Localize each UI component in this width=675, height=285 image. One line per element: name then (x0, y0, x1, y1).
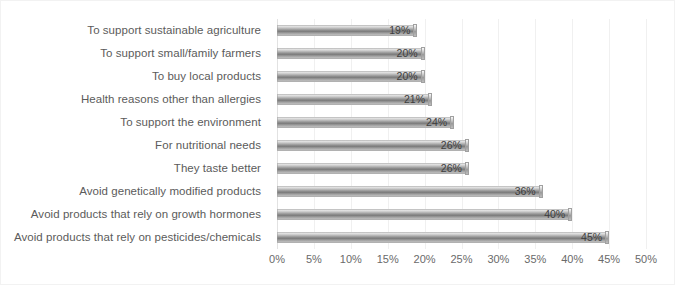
bar-value-label: 20% (277, 46, 422, 61)
axis-tick-label: 45% (598, 253, 620, 265)
axis-tick-label: 5% (306, 253, 322, 265)
category-label: To buy local products (1, 65, 269, 88)
category-label: Health reasons other than allergies (1, 88, 269, 111)
bar-value-label: 20% (277, 69, 422, 84)
bar-row: 26% (277, 134, 646, 157)
category-label: Avoid products that rely on growth hormo… (1, 203, 269, 226)
bar-value-label: 26% (277, 138, 466, 153)
bar-value-label: 26% (277, 161, 466, 176)
axis-tick-label: 35% (524, 253, 546, 265)
axis-tick-label: 50% (635, 253, 657, 265)
category-label: Avoid genetically modified products (1, 180, 269, 203)
plot-area: 19%20%20%21%24%26%26%36%40%45% (277, 19, 646, 249)
bar-row: 20% (277, 65, 646, 88)
axis-tick-label: 25% (450, 253, 472, 265)
axis-tick-label: 10% (340, 253, 362, 265)
bar-row: 20% (277, 42, 646, 65)
bar-row: 26% (277, 157, 646, 180)
bar-value-label: 40% (277, 207, 569, 222)
bar-value-label: 24% (277, 115, 451, 130)
category-axis: To support sustainable agricultureTo sup… (1, 19, 269, 249)
value-axis: 0%5%10%15%20%25%30%35%40%45%50% (277, 253, 646, 273)
axis-tick-label: 40% (561, 253, 583, 265)
bar-row: 40% (277, 203, 646, 226)
axis-tick-label: 20% (414, 253, 436, 265)
category-label: To support the environment (1, 111, 269, 134)
axis-tick-label: 0% (269, 253, 285, 265)
category-label: To support sustainable agriculture (1, 19, 269, 42)
bar-row: 21% (277, 88, 646, 111)
bar-row: 36% (277, 180, 646, 203)
gridline (646, 19, 647, 249)
category-label: Avoid products that rely on pesticides/c… (1, 226, 269, 249)
bar-value-label: 19% (277, 23, 414, 38)
bar-row: 45% (277, 226, 646, 249)
bar-value-label: 21% (277, 92, 429, 107)
bar-chart: To support sustainable agricultureTo sup… (0, 0, 675, 285)
category-label: To support small/family farmers (1, 42, 269, 65)
bar-value-label: 36% (277, 184, 540, 199)
category-label: They taste better (1, 157, 269, 180)
category-label: For nutritional needs (1, 134, 269, 157)
bar-row: 24% (277, 111, 646, 134)
bar-rows: 19%20%20%21%24%26%26%36%40%45% (277, 19, 646, 249)
bar-row: 19% (277, 19, 646, 42)
axis-tick-label: 30% (487, 253, 509, 265)
bar-value-label: 45% (277, 230, 606, 245)
axis-tick-label: 15% (377, 253, 399, 265)
